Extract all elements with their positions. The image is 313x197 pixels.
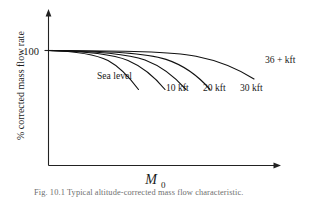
series-label-10-kft: 10 kft bbox=[166, 82, 189, 93]
series-label-sea-level: Sea level bbox=[97, 70, 132, 81]
y-axis bbox=[46, 9, 52, 166]
x-axis bbox=[49, 163, 282, 169]
x-axis-arrow-icon bbox=[274, 163, 282, 169]
mass-flow-chart: 100 % corrected mass flow rate M 0 Sea l… bbox=[0, 0, 313, 197]
series-label-20-kft: 20 kft bbox=[203, 82, 226, 93]
figure-container: 100 % corrected mass flow rate M 0 Sea l… bbox=[0, 0, 313, 197]
series-label-30-kft: 30 kft bbox=[240, 82, 263, 93]
x-axis-title: M bbox=[144, 172, 158, 187]
x-axis-title-group: M 0 bbox=[144, 172, 166, 190]
y-axis-title: % corrected mass flow rate bbox=[15, 31, 26, 140]
y-axis-arrow-icon bbox=[46, 9, 52, 17]
figure-caption: Fig. 10.1 Typical altitude-corrected mas… bbox=[34, 188, 302, 197]
series-label-36-plus-kft: 36 + kft bbox=[265, 54, 296, 65]
